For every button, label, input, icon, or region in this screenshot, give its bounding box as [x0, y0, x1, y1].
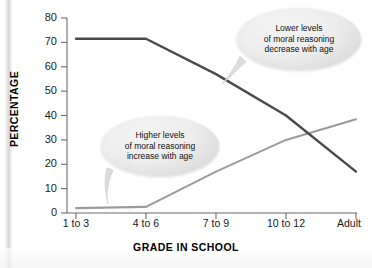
- callout-lower-line-2: of moral reasoning: [125, 141, 195, 151]
- x-tick-label-7-to-9: 7 to 9: [186, 217, 246, 229]
- callout-lower-text: Higher levels of moral reasoning increas…: [119, 130, 201, 161]
- callout-lower-line-3: increase with age: [125, 151, 195, 161]
- y-tick-label-70: 70: [31, 35, 57, 47]
- x-tick-label-4-to-6: 4 to 6: [116, 217, 176, 229]
- y-tick-label-20: 20: [31, 157, 57, 169]
- y-tick-label-30: 30: [31, 133, 57, 145]
- callout-bubble-higher-levels: Higher levels of moral reasoning increas…: [101, 116, 219, 176]
- callout-lower-line-1: Higher levels: [125, 130, 195, 140]
- moral-reasoning-line-chart: 80 70 60 50 40 30 20 10 0 1 to 3 4 to 6 …: [0, 0, 372, 268]
- callout-upper-line-3: decrease with age: [264, 44, 334, 54]
- y-tick-marks: [61, 18, 67, 213]
- y-tick-label-50: 50: [31, 84, 57, 96]
- y-tick-label-80: 80: [31, 11, 57, 23]
- y-tick-label-60: 60: [31, 60, 57, 72]
- callout-tail-upper: [222, 56, 246, 84]
- x-axis-title: GRADE IN SCHOOL: [0, 241, 372, 253]
- callout-tail-lower: [105, 168, 113, 204]
- callout-bubble-lower-levels: Lower levels of moral reasoning decrease…: [237, 8, 361, 70]
- y-axis-title: PERCENTAGE: [8, 54, 20, 164]
- x-tick-label-adult: Adult: [326, 217, 372, 229]
- x-tick-label-1-to-3: 1 to 3: [46, 217, 106, 229]
- callout-upper-text: Lower levels of moral reasoning decrease…: [258, 23, 340, 54]
- x-tick-label-10-to-12: 10 to 12: [254, 217, 318, 229]
- callout-upper-line-2: of moral reasoning: [264, 34, 334, 44]
- y-tick-label-40: 40: [31, 109, 57, 121]
- y-tick-label-10: 10: [31, 182, 57, 194]
- callout-upper-line-1: Lower levels: [264, 23, 334, 33]
